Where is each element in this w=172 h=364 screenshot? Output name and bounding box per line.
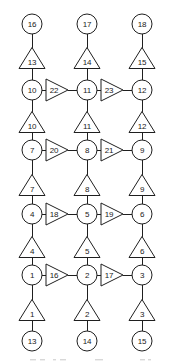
triangle-16-label: 16 bbox=[50, 271, 59, 280]
triangle-11-label: 11 bbox=[83, 122, 92, 131]
systolic-array-diagram: 1617181011127894561231314151314151011127… bbox=[0, 0, 172, 364]
circle-16-label: 16 bbox=[28, 20, 37, 29]
circle-15-label: 15 bbox=[138, 337, 147, 346]
triangle-13-label: 13 bbox=[28, 58, 37, 67]
circle-11-label: 11 bbox=[83, 86, 92, 95]
diagram-canvas: 1617181011127894561231314151314151011127… bbox=[0, 0, 172, 364]
triangle-12-label: 12 bbox=[138, 122, 147, 131]
triangle-15-label: 15 bbox=[138, 58, 147, 67]
circle-12-label: 12 bbox=[138, 86, 147, 95]
triangle-10-label: 10 bbox=[28, 122, 37, 131]
circle-14-label: 14 bbox=[83, 337, 92, 346]
triangle-19-label: 19 bbox=[105, 210, 114, 219]
triangle-18-label: 18 bbox=[50, 210, 59, 219]
circle-17-label: 17 bbox=[83, 20, 92, 29]
triangle-14-label: 14 bbox=[83, 58, 92, 67]
circle-10-label: 10 bbox=[28, 86, 37, 95]
triangle-21-label: 21 bbox=[105, 146, 114, 155]
nodes-layer: 1617181011127894561231314151314151011127… bbox=[19, 14, 155, 351]
circle-13-label: 13 bbox=[28, 337, 37, 346]
triangle-17-label: 17 bbox=[105, 271, 114, 280]
circle-18-label: 18 bbox=[138, 20, 147, 29]
triangle-23-label: 23 bbox=[105, 86, 114, 95]
triangle-22-label: 22 bbox=[50, 86, 59, 95]
triangle-20-label: 20 bbox=[50, 146, 59, 155]
